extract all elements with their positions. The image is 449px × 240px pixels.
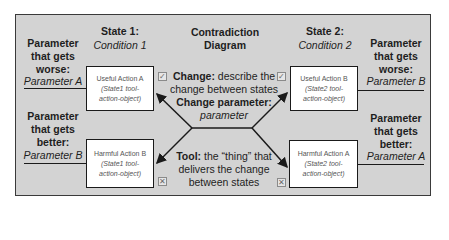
change-description-line1: Change: describe the [166,70,282,83]
change-text2: change between states [162,83,286,96]
tool-label: Tool: [176,150,201,162]
change-parameter-value: parameter [166,109,282,122]
tool-text2: delivers the change [166,163,282,176]
tool-text3: between states [166,176,282,189]
change-parameter-label: Change parameter: [166,96,282,109]
change-label: Change: [173,70,215,82]
tool-description-line1: Tool: the “thing” that [166,150,282,163]
tool-text1: the “thing” that [204,150,272,162]
change-text1: describe the [218,70,275,82]
